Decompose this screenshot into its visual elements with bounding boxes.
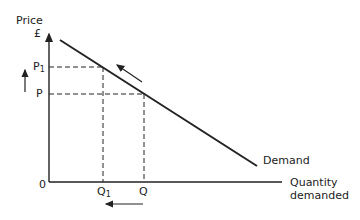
quantity-label-q: Q bbox=[139, 186, 148, 199]
origin-label: 0 bbox=[39, 179, 46, 191]
y-axis-unit: £ bbox=[34, 28, 41, 40]
demand-curve bbox=[60, 40, 257, 166]
price-label-p: P bbox=[36, 88, 43, 101]
x-axis-label-2: demanded bbox=[290, 190, 349, 202]
demand-label: Demand bbox=[263, 155, 310, 167]
price-label-p1: P1 bbox=[33, 61, 45, 74]
y-axis-label: Price bbox=[16, 15, 43, 27]
x-axis-label: Quantity bbox=[290, 177, 338, 189]
quantity-label-q1: Q1 bbox=[97, 186, 111, 199]
